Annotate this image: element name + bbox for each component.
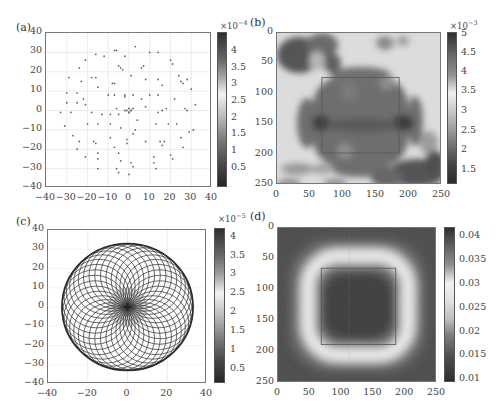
colorbar-tick-label: 0.5 (230, 362, 245, 373)
data-point (66, 102, 68, 104)
colorbar-tick-label: 2.5 (230, 286, 245, 297)
y-tick-label: −10 (16, 318, 44, 329)
data-point (114, 82, 116, 84)
data-point (157, 112, 159, 114)
rosette-plot-c-canvas (48, 230, 206, 383)
colorbar-c-exponent: ×10−5 (218, 212, 246, 224)
scatter-plot-a-canvas (46, 33, 211, 187)
data-point (134, 129, 136, 131)
colorbar-b (447, 32, 457, 184)
data-point (93, 141, 95, 143)
x-tick-label: 0 (261, 188, 291, 199)
colorbar-tick-label: 0.5 (231, 161, 246, 172)
y-tick-label: 0 (245, 25, 273, 36)
x-tick-label: 0 (112, 387, 142, 398)
data-point (180, 137, 182, 139)
data-point (157, 79, 159, 81)
x-tick-label: 100 (326, 386, 356, 397)
y-tick-label: 200 (245, 147, 273, 158)
y-tick-label: 50 (246, 251, 274, 262)
colorbar-tick-label: 1.5 (231, 127, 246, 138)
y-tick-label: 250 (245, 177, 273, 188)
data-point (130, 75, 132, 77)
colorbar-a-exponent: ×10−4 (220, 19, 248, 31)
y-tick-label: 0 (246, 220, 274, 231)
data-point (182, 82, 184, 84)
data-point (107, 94, 109, 96)
data-point (170, 154, 172, 156)
rosette-plot-c (47, 229, 206, 383)
data-point (118, 113, 120, 115)
data-point (101, 113, 103, 115)
data-point (141, 98, 143, 100)
data-point (132, 166, 134, 168)
data-point (161, 144, 163, 146)
x-tick-label: 250 (426, 188, 456, 199)
y-tick-label: 0 (16, 299, 44, 310)
colorbar-tick-label: 0.04 (459, 229, 480, 240)
colorbar-tick-label: 2 (461, 143, 467, 154)
data-point (80, 81, 82, 83)
data-point (124, 55, 126, 57)
x-tick-label: 50 (294, 386, 324, 397)
heatmap-b (276, 32, 441, 184)
data-point (114, 146, 116, 148)
data-point (112, 82, 114, 84)
data-point (143, 65, 145, 67)
data-point (116, 168, 118, 170)
colorbar-tick-label: 3 (231, 77, 237, 88)
data-point (116, 50, 118, 52)
colorbar-tick-label: 4.5 (461, 46, 476, 57)
x-tick-label: 50 (294, 188, 324, 199)
data-point (188, 131, 190, 133)
colorbar-c (214, 228, 225, 383)
data-point (122, 69, 124, 71)
data-point (60, 112, 62, 114)
data-point (109, 113, 111, 115)
data-point (120, 127, 122, 129)
y-tick-label: 50 (245, 55, 273, 66)
data-point (145, 141, 147, 143)
data-point (85, 156, 87, 158)
y-tick-label: 150 (245, 116, 273, 127)
colorbar-tick-label: 0.02 (459, 325, 480, 336)
data-point (155, 123, 157, 125)
colorbar-tick-label: 0.015 (459, 348, 486, 359)
data-point (153, 162, 155, 164)
y-tick-label: −30 (16, 357, 44, 368)
y-tick-label: 20 (16, 261, 44, 272)
data-point (97, 86, 99, 88)
y-tick-label: −30 (14, 161, 42, 172)
data-point (132, 133, 134, 135)
data-point (182, 146, 184, 148)
x-tick-label: 100 (327, 188, 357, 199)
data-point (163, 141, 165, 143)
data-point (116, 108, 118, 110)
data-point (118, 65, 120, 67)
data-point (159, 141, 161, 143)
y-tick-label: 20 (14, 64, 42, 75)
colorbar-tick-label: 1 (230, 343, 236, 354)
data-point (66, 92, 68, 94)
data-point (130, 162, 132, 164)
colorbar-tick-label: 1 (231, 144, 237, 155)
data-point (109, 123, 111, 125)
colorbar-d (444, 227, 455, 382)
x-tick-label: 0 (262, 386, 292, 397)
data-point (91, 112, 93, 114)
x-tick-label: 20 (151, 387, 181, 398)
data-point (161, 110, 163, 112)
data-point (186, 110, 188, 112)
data-point (141, 67, 143, 69)
data-point (76, 92, 78, 94)
colorbar-tick-label: 1.5 (230, 324, 245, 335)
x-tick-label: 200 (393, 188, 423, 199)
x-tick-label: 40 (191, 387, 221, 398)
colorbar-tick-label: 3.5 (461, 84, 476, 95)
x-tick-label: 200 (389, 386, 419, 397)
data-point (64, 125, 66, 127)
x-tick-label: −40 (32, 387, 62, 398)
data-point (76, 102, 78, 104)
data-point (180, 81, 182, 83)
data-point (85, 104, 87, 106)
